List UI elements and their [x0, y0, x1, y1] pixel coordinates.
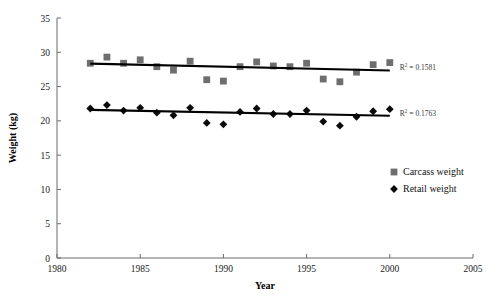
x-tick-label-1990: 1990	[214, 264, 233, 274]
data-point-diamond	[170, 111, 178, 119]
r-squared-annotation: R2 = 0.1763	[400, 108, 436, 118]
legend-item-retail-weight: Retail weight	[403, 183, 457, 194]
x-tick-label-1995: 1995	[297, 264, 316, 274]
y-tick-label-10: 10	[41, 185, 51, 195]
data-point-square	[303, 60, 310, 67]
r-squared-annotation: R2 = 0.1581	[400, 62, 436, 72]
y-tick-label-20: 20	[41, 116, 51, 126]
data-point-square	[336, 78, 343, 85]
x-tick-label-2005: 2005	[464, 264, 483, 274]
data-point-diamond	[153, 109, 161, 117]
data-point-diamond	[253, 105, 261, 113]
data-point-square	[104, 54, 111, 61]
y-axis-title: Weight (kg)	[7, 113, 19, 163]
data-point-diamond	[369, 107, 377, 115]
data-point-square	[137, 56, 144, 63]
data-point-diamond	[390, 185, 398, 193]
legend-item-carcass-weight: Carcass weight	[403, 166, 464, 177]
y-tick-label-35: 35	[41, 14, 51, 24]
scatter-chart: 19801985199019952000200505101520253035Ye…	[0, 0, 498, 297]
data-point-diamond	[103, 101, 111, 109]
data-point-square	[120, 60, 127, 67]
data-point-square	[203, 76, 210, 83]
data-point-diamond	[220, 120, 228, 128]
data-point-square	[220, 78, 227, 85]
data-point-diamond	[203, 119, 211, 127]
data-point-diamond	[336, 122, 344, 130]
data-point-diamond	[86, 105, 94, 113]
data-point-diamond	[319, 118, 327, 126]
y-tick-label-30: 30	[41, 48, 51, 58]
x-tick-label-1985: 1985	[131, 264, 150, 274]
x-axis-title: Year	[255, 280, 276, 291]
data-point-square	[391, 169, 398, 176]
x-tick-label-1980: 1980	[48, 264, 67, 274]
data-point-diamond	[386, 105, 394, 113]
data-point-square	[253, 58, 260, 65]
data-point-square	[370, 61, 377, 68]
y-tick-label-5: 5	[45, 219, 50, 229]
chart-canvas: 19801985199019952000200505101520253035Ye…	[0, 0, 498, 297]
data-point-square	[187, 58, 194, 65]
data-point-diamond	[186, 104, 194, 112]
x-tick-label-2000: 2000	[380, 264, 399, 274]
y-tick-label-0: 0	[45, 254, 50, 264]
y-tick-label-25: 25	[41, 82, 51, 92]
data-point-square	[386, 59, 393, 66]
y-tick-label-15: 15	[41, 151, 51, 161]
data-point-square	[170, 67, 177, 74]
data-point-square	[320, 76, 327, 83]
